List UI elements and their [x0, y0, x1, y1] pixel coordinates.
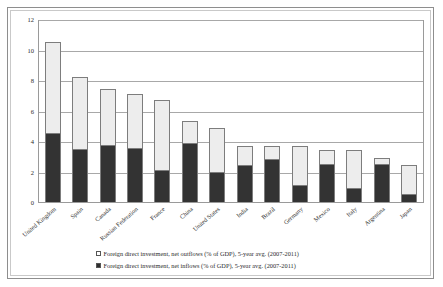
bar-column[interactable]	[204, 21, 231, 202]
x-label-column: Argentina	[368, 205, 395, 247]
bar-column[interactable]	[368, 21, 395, 202]
x-axis-category-label: Japan	[399, 206, 414, 220]
bar-column[interactable]	[39, 21, 66, 202]
x-axis-category-label: Italy	[346, 206, 359, 218]
bar-stack[interactable]	[182, 121, 198, 202]
x-axis-category-label: India	[235, 206, 249, 219]
bar-stack[interactable]	[209, 128, 225, 202]
bar-segment-inflows[interactable]	[293, 185, 307, 202]
x-label-column: Brazil	[258, 205, 285, 247]
bar-column[interactable]	[66, 21, 93, 202]
x-label-column: United Kingdom	[39, 205, 66, 247]
bar-segment-inflows[interactable]	[210, 172, 224, 203]
legend-item[interactable]: Foreign direct investment, net outflows …	[96, 251, 348, 257]
legend-swatch-inflow-icon	[96, 263, 101, 268]
bar-column[interactable]	[231, 21, 258, 202]
bar-stack[interactable]	[264, 146, 280, 202]
bar-segment-inflows[interactable]	[155, 170, 169, 202]
bar-column[interactable]	[313, 21, 340, 202]
bar-segment-outflows[interactable]	[128, 95, 142, 148]
y-tick-label: 6	[31, 108, 34, 115]
bar-stack[interactable]	[346, 150, 362, 202]
bar-segment-inflows[interactable]	[101, 145, 115, 202]
y-axis: 024681012	[16, 20, 36, 203]
bar-column[interactable]	[341, 21, 368, 202]
y-tick-label: 4	[31, 139, 34, 146]
bar-segment-outflows[interactable]	[320, 151, 334, 164]
bar-segment-outflows[interactable]	[402, 166, 416, 194]
bar-segment-inflows[interactable]	[347, 188, 361, 202]
bar-column[interactable]	[395, 21, 422, 202]
bar-column[interactable]	[176, 21, 203, 202]
bar-column[interactable]	[94, 21, 121, 202]
bar-segment-inflows[interactable]	[128, 148, 142, 202]
y-tick-label: 12	[28, 17, 35, 24]
bar-segment-inflows[interactable]	[238, 165, 252, 202]
bar-stack[interactable]	[237, 146, 253, 202]
bar-stack[interactable]	[100, 89, 116, 202]
bar-segment-outflows[interactable]	[46, 43, 60, 133]
y-tick-label: 2	[31, 169, 34, 176]
bar-stack[interactable]	[319, 150, 335, 202]
bar-segment-inflows[interactable]	[46, 133, 60, 202]
bar-series-container	[39, 21, 423, 202]
bar-stack[interactable]	[292, 146, 308, 202]
bar-stack[interactable]	[154, 100, 170, 202]
x-label-column: Japan	[395, 205, 422, 247]
bar-segment-outflows[interactable]	[347, 151, 361, 188]
x-axis-category-label: Mexico	[313, 206, 331, 223]
legend-row[interactable]: Foreign direct investment, net inflows (…	[0, 260, 443, 272]
x-label-column: Italy	[341, 205, 368, 247]
bar-column[interactable]	[149, 21, 176, 202]
bar-segment-inflows[interactable]	[183, 143, 197, 202]
legend-swatch-outflow-icon	[96, 251, 101, 256]
legend-row[interactable]: Foreign direct investment, net outflows …	[0, 248, 443, 260]
x-label-column: United States	[204, 205, 231, 247]
bar-segment-outflows[interactable]	[293, 147, 307, 185]
x-label-column: France	[149, 205, 176, 247]
bar-stack[interactable]	[401, 165, 417, 202]
bar-column[interactable]	[286, 21, 313, 202]
legend-item[interactable]: Foreign direct investment, net inflows (…	[96, 263, 348, 269]
x-label-column: Russian Federation	[121, 205, 148, 247]
bar-column[interactable]	[258, 21, 285, 202]
x-axis-category-label: Brazil	[261, 206, 276, 221]
bar-segment-outflows[interactable]	[155, 101, 169, 170]
bar-segment-inflows[interactable]	[402, 194, 416, 202]
x-axis-category-label: Canada	[94, 206, 112, 223]
bar-stack[interactable]	[72, 77, 88, 202]
bar-segment-outflows[interactable]	[183, 122, 197, 143]
x-axis-category-label: France	[150, 206, 167, 222]
bar-segment-outflows[interactable]	[265, 147, 279, 158]
x-axis-category-label: Spain	[69, 206, 84, 220]
bar-stack[interactable]	[374, 158, 390, 202]
plot-wrapper	[38, 20, 424, 203]
x-label-column: Germany	[286, 205, 313, 247]
legend-label: Foreign direct investment, net outflows …	[104, 251, 299, 257]
y-tick-label: 10	[28, 47, 35, 54]
x-label-column: Mexico	[313, 205, 340, 247]
legend-label: Foreign direct investment, net inflows (…	[104, 263, 296, 269]
y-tick-label: 8	[31, 78, 34, 85]
bar-column[interactable]	[121, 21, 148, 202]
x-axis-category-label: China	[179, 206, 194, 220]
x-label-column: India	[231, 205, 258, 247]
bar-segment-outflows[interactable]	[238, 147, 252, 165]
bar-segment-outflows[interactable]	[210, 129, 224, 172]
bar-segment-inflows[interactable]	[265, 159, 279, 202]
chart-legend: Foreign direct investment, net outflows …	[0, 248, 443, 272]
bar-segment-inflows[interactable]	[73, 149, 87, 202]
x-axis-category-label: Germany	[282, 206, 303, 226]
bar-segment-inflows[interactable]	[320, 164, 334, 202]
chart-page: 024681012 United KingdomSpainCanadaRussi…	[0, 0, 443, 287]
bar-stack[interactable]	[127, 94, 143, 202]
bar-segment-outflows[interactable]	[101, 90, 115, 145]
bar-stack[interactable]	[45, 42, 61, 202]
x-label-column: Spain	[66, 205, 93, 247]
bar-segment-inflows[interactable]	[375, 164, 389, 202]
x-axis-labels: United KingdomSpainCanadaRussian Federat…	[39, 205, 423, 247]
y-tick-label: 0	[31, 200, 34, 207]
bar-segment-outflows[interactable]	[73, 78, 87, 148]
